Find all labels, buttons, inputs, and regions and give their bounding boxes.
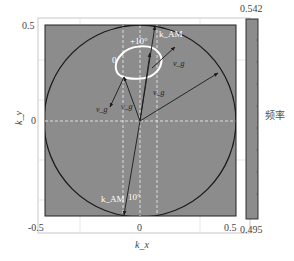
zero-contour-label: 0 xyxy=(112,55,117,65)
colorbar-max-label: 0.542 xyxy=(240,3,263,14)
vg-center-label: v_g xyxy=(153,88,165,97)
angle-bottom-label: 10° xyxy=(128,192,141,202)
x-axis-title: k_x xyxy=(135,239,149,250)
y-tick-top: 0.5 xyxy=(22,20,35,31)
x-tick-right: 0.5 xyxy=(224,222,237,233)
vg-right-label: v_g xyxy=(173,59,185,68)
colorbar-min-label: 0.495 xyxy=(240,224,263,235)
x-tick-zero: 0 xyxy=(137,222,142,233)
x-tick-left: -0.5 xyxy=(28,222,44,233)
vg-left-label: v_g xyxy=(96,105,108,114)
vg-mid-label: v_g xyxy=(121,102,133,111)
y-axis-title: k_y xyxy=(13,111,24,125)
k-top-label: k_AM xyxy=(159,29,183,39)
diagram-canvas: +10° 0 k_AM k_AM 10° v_g v_g v_g v_g 0.5… xyxy=(0,0,294,261)
angle-top-label: +10° xyxy=(130,36,148,46)
colorbar-title: 频率 xyxy=(265,109,285,121)
colorbar xyxy=(246,19,258,219)
k-bottom-label: k_AM xyxy=(101,194,125,204)
y-tick-zero: 0 xyxy=(31,115,36,126)
